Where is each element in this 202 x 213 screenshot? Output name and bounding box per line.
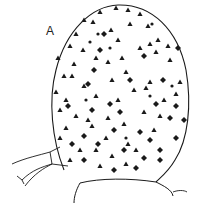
triangle-marker <box>67 157 72 162</box>
diamond-marker <box>133 165 139 171</box>
triangle-marker <box>80 47 85 52</box>
triangle-marker <box>71 61 76 66</box>
triangle-marker <box>105 115 110 120</box>
triangle-marker <box>93 55 98 60</box>
triangle-marker <box>157 113 162 118</box>
diamond-marker <box>89 107 95 113</box>
triangle-marker <box>67 43 72 48</box>
triangle-marker <box>115 97 120 102</box>
triangle-marker <box>63 125 68 130</box>
diamond-marker <box>85 81 91 87</box>
triangle-marker <box>97 163 102 168</box>
triangle-marker <box>123 69 128 74</box>
lower-segment-tick <box>173 191 187 193</box>
specimen-figure: A <box>0 0 202 213</box>
diamond-marker <box>91 67 97 73</box>
triangle-marker <box>90 19 95 24</box>
diamond-marker <box>97 47 103 53</box>
body-outline <box>52 5 189 182</box>
diamond-marker <box>173 103 179 109</box>
triangle-marker <box>141 109 146 114</box>
triangle-marker <box>173 91 178 96</box>
triangle-marker <box>123 161 128 166</box>
dot-marker <box>124 136 127 139</box>
triangle-marker <box>147 79 152 84</box>
appendage <box>12 147 68 184</box>
dot-marker <box>88 40 91 43</box>
diamond-marker <box>181 117 187 123</box>
triangle-marker <box>109 77 114 82</box>
diamond-marker <box>127 77 133 83</box>
diamond-marker <box>111 127 117 133</box>
triangle-marker <box>57 107 62 112</box>
triangle-marker <box>61 73 66 78</box>
triangle-marker <box>145 23 150 28</box>
diamond-marker <box>65 103 71 109</box>
triangle-marker <box>93 147 98 152</box>
triangle-marker <box>89 123 94 128</box>
diamond-marker <box>107 101 113 107</box>
triangle-marker <box>109 153 114 158</box>
triangle-marker <box>119 55 124 60</box>
diamond-marker <box>173 135 179 141</box>
triangle-marker <box>167 57 172 62</box>
lower-left-stem <box>74 183 80 203</box>
triangle-marker <box>125 141 130 146</box>
triangle-marker <box>73 113 78 118</box>
diamond-marker <box>157 147 163 153</box>
triangle-marker <box>133 147 138 152</box>
triangle-marker <box>69 73 74 78</box>
triangle-marker <box>137 45 142 50</box>
triangle-marker <box>85 117 90 122</box>
diamond-marker <box>157 157 163 163</box>
triangle-marker <box>93 93 98 98</box>
diamond-marker <box>141 53 147 59</box>
dot-marker <box>170 84 173 87</box>
diamond-marker <box>101 31 107 37</box>
dot-marker <box>84 98 87 101</box>
triangle-marker <box>147 41 152 46</box>
surface-markings <box>53 5 187 173</box>
triangle-marker <box>121 121 126 126</box>
triangle-marker <box>73 31 78 36</box>
dot-marker <box>148 94 151 97</box>
diamond-marker <box>167 115 173 121</box>
dot-marker <box>150 22 153 25</box>
triangle-marker <box>127 21 132 26</box>
lower-segment-outline <box>80 179 173 196</box>
triangle-marker <box>131 87 136 92</box>
diamond-marker <box>160 77 166 83</box>
triangle-marker <box>57 135 62 140</box>
triangle-marker <box>155 37 160 42</box>
diamond-marker <box>141 155 147 161</box>
triangle-marker <box>77 147 82 152</box>
triangle-marker <box>137 11 142 16</box>
triangle-marker <box>53 89 58 94</box>
diamond-marker <box>147 137 153 143</box>
diamond-marker <box>69 141 75 147</box>
triangle-marker <box>103 135 108 140</box>
diamond-marker <box>121 147 127 153</box>
triangle-marker <box>143 85 148 90</box>
dot-marker <box>96 32 99 35</box>
diamond-marker <box>137 129 143 135</box>
triangle-marker <box>113 5 118 10</box>
triangle-marker <box>105 59 110 64</box>
triangle-marker <box>165 43 170 48</box>
specimen-drawing <box>0 0 202 213</box>
triangle-marker <box>161 97 166 102</box>
diamond-marker <box>95 141 101 147</box>
triangle-marker <box>151 127 156 132</box>
diamond-marker <box>153 101 159 107</box>
triangle-marker <box>108 27 113 32</box>
triangle-marker <box>125 7 130 12</box>
triangle-marker <box>177 79 182 84</box>
triangle-marker <box>63 97 68 102</box>
dot-marker <box>108 46 111 49</box>
diamond-marker <box>111 167 117 173</box>
appendage-lower <box>25 164 52 186</box>
diamond-marker <box>117 109 123 115</box>
triangle-marker <box>153 49 158 54</box>
triangle-marker <box>115 37 120 42</box>
diamond-marker <box>81 133 87 139</box>
